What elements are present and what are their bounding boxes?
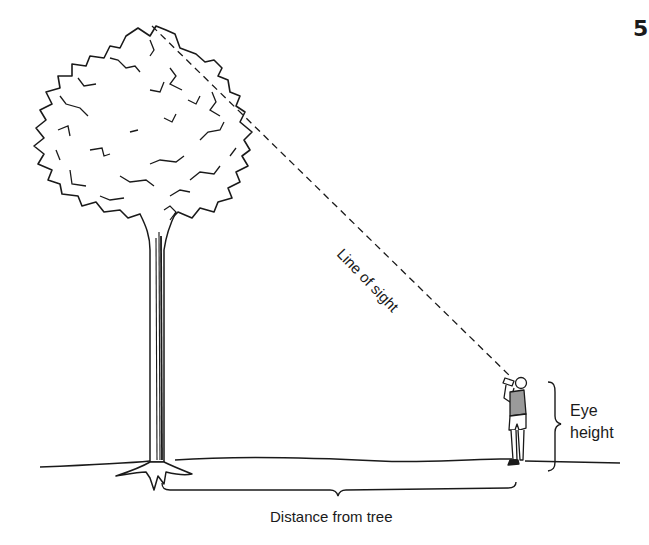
eye-height-brace [548, 382, 561, 471]
person-figure [503, 378, 527, 466]
tree-trunk [140, 206, 176, 462]
page-number: 5 [633, 16, 648, 41]
tree-canopy [34, 26, 252, 222]
distance-from-tree-label: Distance from tree [270, 508, 393, 525]
eye-height-label-line1: Eye [570, 400, 614, 422]
tree-height-diagram: 5 Line of sight Eye height Distance from… [0, 0, 649, 545]
diagram-canvas [0, 0, 649, 545]
eye-height-label: Eye height [570, 400, 614, 444]
tree-roots [116, 462, 192, 490]
eye-height-label-line2: height [570, 422, 614, 444]
distance-brace [162, 482, 516, 496]
ground-line [40, 457, 620, 467]
